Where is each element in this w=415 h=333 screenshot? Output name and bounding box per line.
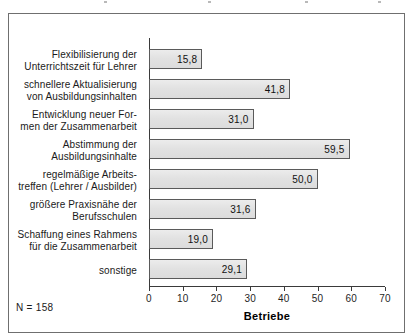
- category-label-line: sonstige: [5, 265, 137, 277]
- x-tick-mark: [250, 287, 251, 291]
- category-label: Schaffung eines Rahmensfür die Zusammena…: [5, 229, 137, 252]
- category-label-line: Entwicklung neuer For-: [5, 109, 137, 121]
- bar-row: größere Praxisnähe derBerufsschulen31,6: [149, 194, 385, 224]
- bar-row: Entwicklung neuer For-men der Zusammenar…: [149, 104, 385, 134]
- bar-row: Schaffung eines Rahmensfür die Zusammena…: [149, 224, 385, 254]
- category-label-line: größere Praxisnähe der: [5, 199, 137, 211]
- bar-value-label: 59,5: [324, 144, 344, 155]
- x-tick-mark: [351, 287, 352, 291]
- category-label: Flexibilisierung derUnterrichtszeit für …: [5, 49, 137, 72]
- bar-value-label: 15,8: [177, 54, 197, 65]
- x-tick-label: 0: [134, 293, 164, 304]
- category-label-line: Ausbildungsinhalte: [5, 151, 137, 163]
- category-label-line: regelmäßige Arbeits-: [5, 169, 137, 181]
- category-label-line: für die Zusammenarbeit: [5, 241, 137, 253]
- category-label-line: Flexibilisierung der: [5, 49, 137, 61]
- bar-value-label: 50,0: [292, 174, 312, 185]
- category-label: sonstige: [5, 265, 137, 277]
- bar-row: sonstige29,1: [149, 254, 385, 284]
- sample-size-note: N = 158: [16, 302, 53, 313]
- scan-speck: [208, 1, 211, 3]
- x-tick-label: 70: [370, 293, 400, 304]
- scan-speck: [104, 1, 107, 3]
- bar-row: Abstimmung derAusbildungsinhalte59,5: [149, 134, 385, 164]
- x-tick-mark: [385, 287, 386, 291]
- x-tick-label: 30: [235, 293, 265, 304]
- bar: 29,1: [149, 259, 247, 279]
- category-label: schnellere Aktualisierungvon Ausbildungs…: [5, 79, 137, 102]
- category-label-line: Berufsschulen: [5, 211, 137, 223]
- category-label: Abstimmung derAusbildungsinhalte: [5, 139, 137, 162]
- category-label-line: Schaffung eines Rahmens: [5, 229, 137, 241]
- bar-value-label: 31,6: [230, 204, 250, 215]
- x-tick-label: 50: [303, 293, 333, 304]
- x-axis-title: Betriebe: [149, 310, 385, 322]
- category-label: regelmäßige Arbeits-treffen (Lehrer / Au…: [5, 169, 137, 192]
- scan-speck: [305, 1, 308, 3]
- bar-row: Flexibilisierung derUnterrichtszeit für …: [149, 44, 385, 74]
- plot-area: 010203040506070 Flexibilisierung derUnte…: [149, 38, 385, 286]
- bar: 50,0: [149, 169, 318, 189]
- bar-value-label: 19,0: [188, 234, 208, 245]
- bar: 41,8: [149, 79, 290, 99]
- bar: 59,5: [149, 139, 350, 159]
- bar: 31,6: [149, 199, 256, 219]
- bar-value-label: 29,1: [222, 264, 242, 275]
- category-label-line: Unterrichtszeit für Lehrer: [5, 61, 137, 73]
- x-tick-mark: [183, 287, 184, 291]
- x-tick-label: 20: [201, 293, 231, 304]
- scan-edge-artifact: [0, 0, 415, 7]
- x-tick-mark: [216, 287, 217, 291]
- x-tick-mark: [284, 287, 285, 291]
- x-tick-label: 10: [168, 293, 198, 304]
- category-label-line: men der Zusammenarbeit: [5, 121, 137, 133]
- x-axis-line: [149, 286, 385, 287]
- bar: 31,0: [149, 109, 254, 129]
- scan-speck: [378, 1, 381, 3]
- bar-value-label: 41,8: [265, 84, 285, 95]
- x-tick-label: 60: [336, 293, 366, 304]
- category-label-line: treffen (Lehrer / Ausbilder): [5, 181, 137, 193]
- category-label: größere Praxisnähe derBerufsschulen: [5, 199, 137, 222]
- chart-frame: 010203040506070 Flexibilisierung derUnte…: [8, 13, 405, 333]
- x-tick-mark: [318, 287, 319, 291]
- category-label: Entwicklung neuer For-men der Zusammenar…: [5, 109, 137, 132]
- category-label-line: Abstimmung der: [5, 139, 137, 151]
- bar: 19,0: [149, 229, 213, 249]
- bar-row: regelmäßige Arbeits-treffen (Lehrer / Au…: [149, 164, 385, 194]
- bar-row: schnellere Aktualisierungvon Ausbildungs…: [149, 74, 385, 104]
- bar-value-label: 31,0: [228, 114, 248, 125]
- category-label-line: von Ausbildungsinhalten: [5, 91, 137, 103]
- category-label-line: schnellere Aktualisierung: [5, 79, 137, 91]
- bar: 15,8: [149, 49, 202, 69]
- x-tick-label: 40: [269, 293, 299, 304]
- x-tick-mark: [149, 287, 150, 291]
